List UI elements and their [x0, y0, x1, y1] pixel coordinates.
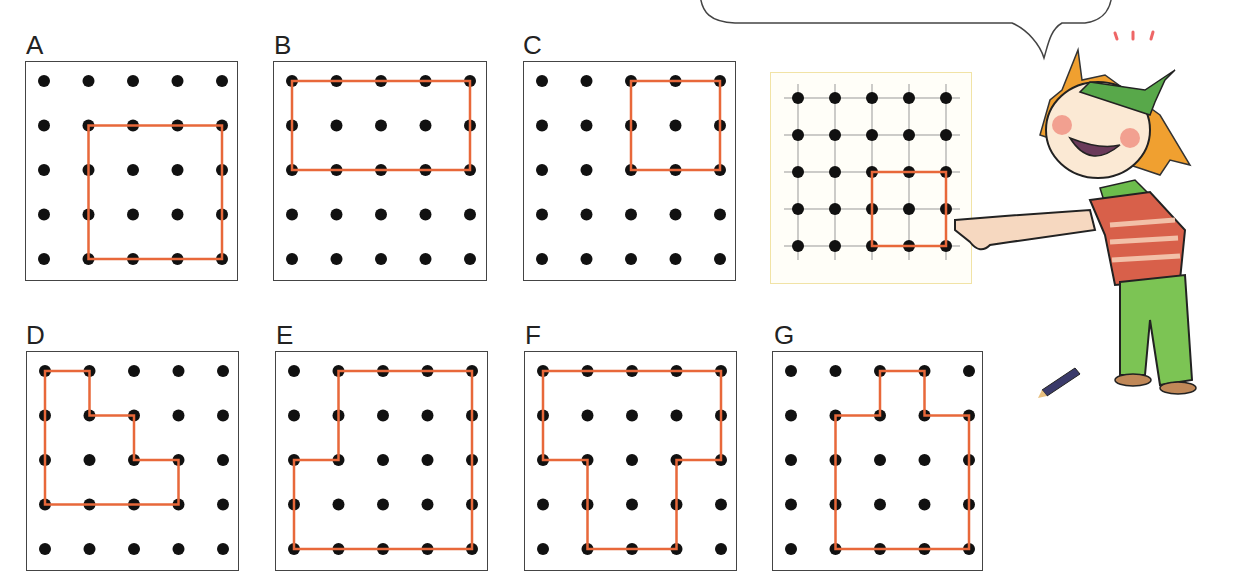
peg-dot	[375, 209, 387, 221]
label-b: B	[274, 32, 291, 58]
peg-dot	[377, 499, 389, 511]
peg-dot	[84, 543, 96, 555]
peg-dot	[83, 75, 95, 87]
peg-dot	[127, 209, 139, 221]
peg-dot	[38, 164, 50, 176]
pegboard-c-figure	[524, 62, 737, 282]
pegboard-b	[273, 61, 487, 281]
peg-dot	[903, 203, 915, 215]
example-grid	[770, 72, 972, 284]
example-grid-figure	[771, 73, 973, 285]
pegboard-d-figure	[27, 352, 240, 572]
peg-dot	[792, 92, 804, 104]
peg-dot	[173, 365, 185, 377]
peg-dot	[626, 410, 638, 422]
peg-dot	[671, 410, 683, 422]
peg-dot	[377, 454, 389, 466]
pegboard-a-figure	[26, 62, 239, 282]
shape-outline	[89, 126, 223, 260]
peg-dot	[128, 543, 140, 555]
peg-dot	[903, 92, 915, 104]
peg-dot	[422, 410, 434, 422]
label-a: A	[26, 32, 43, 58]
label-e: E	[276, 322, 293, 348]
peg-dot	[217, 454, 229, 466]
peg-dot	[420, 120, 432, 132]
peg-dot	[38, 253, 50, 265]
peg-dot	[626, 454, 638, 466]
peg-dot	[127, 75, 139, 87]
peg-dot	[581, 120, 593, 132]
peg-dot	[286, 253, 298, 265]
peg-dot	[536, 253, 548, 265]
peg-dot	[331, 209, 343, 221]
child-character-illustration	[950, 20, 1241, 400]
peg-dot	[173, 410, 185, 422]
peg-dot	[286, 209, 298, 221]
peg-dot	[581, 164, 593, 176]
peg-dot	[785, 454, 797, 466]
peg-dot	[830, 365, 842, 377]
label-c: C	[523, 32, 542, 58]
peg-dot	[217, 543, 229, 555]
label-g: G	[774, 322, 794, 348]
peg-dot	[626, 499, 638, 511]
peg-dot	[464, 253, 476, 265]
pegboard-e	[275, 351, 488, 571]
peg-dot	[919, 499, 931, 511]
peg-dot	[792, 240, 804, 252]
peg-dot	[792, 129, 804, 141]
label-f: F	[525, 322, 541, 348]
pegboard-a	[25, 61, 238, 281]
peg-dot	[581, 253, 593, 265]
peg-dot	[84, 454, 96, 466]
peg-dot	[785, 543, 797, 555]
peg-dot	[714, 253, 726, 265]
peg-dot	[375, 120, 387, 132]
peg-dot	[216, 75, 228, 87]
peg-dot	[172, 164, 184, 176]
peg-dot	[874, 499, 886, 511]
peg-dot	[173, 543, 185, 555]
peg-dot	[333, 499, 345, 511]
shape-outline	[45, 371, 179, 505]
pencil-icon	[1038, 368, 1080, 398]
pegboard-e-figure	[276, 352, 489, 572]
peg-dot	[127, 164, 139, 176]
peg-dot	[377, 410, 389, 422]
peg-dot	[38, 120, 50, 132]
peg-dot	[288, 410, 300, 422]
peg-dot	[217, 410, 229, 422]
peg-dot	[903, 129, 915, 141]
peg-dot	[331, 120, 343, 132]
peg-dot	[537, 499, 549, 511]
peg-dot	[420, 209, 432, 221]
peg-dot	[422, 454, 434, 466]
peg-dot	[38, 75, 50, 87]
peg-dot	[536, 164, 548, 176]
peg-dot	[670, 209, 682, 221]
peg-dot	[536, 120, 548, 132]
peg-dot	[581, 209, 593, 221]
peg-dot	[39, 543, 51, 555]
peg-dot	[785, 410, 797, 422]
peg-dot	[874, 454, 886, 466]
peg-dot	[919, 454, 931, 466]
peg-dot	[829, 129, 841, 141]
peg-dot	[625, 209, 637, 221]
pegboard-c	[523, 61, 736, 281]
peg-dot	[288, 365, 300, 377]
peg-dot	[331, 253, 343, 265]
peg-dot	[420, 253, 432, 265]
peg-dot	[128, 365, 140, 377]
peg-dot	[785, 499, 797, 511]
peg-dot	[217, 499, 229, 511]
peg-dot	[625, 253, 637, 265]
peg-dot	[536, 209, 548, 221]
peg-dot	[172, 209, 184, 221]
peg-dot	[582, 410, 594, 422]
peg-dot	[422, 499, 434, 511]
peg-dot	[792, 203, 804, 215]
alert-marks-icon	[1115, 32, 1153, 39]
peg-dot	[829, 92, 841, 104]
